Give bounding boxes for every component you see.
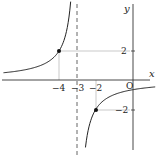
tick-label-m2: −2 bbox=[89, 83, 102, 93]
curve-left-branch bbox=[4, 2, 71, 73]
y-axis-label: y bbox=[123, 3, 130, 14]
point-m2-m2 bbox=[94, 108, 98, 112]
tick-label-m4: −4 bbox=[52, 83, 66, 93]
x-axis-label: x bbox=[149, 68, 155, 79]
origin-label: O bbox=[126, 81, 133, 91]
tick-label-ym2: −2 bbox=[115, 105, 128, 115]
tick-label-y2: 2 bbox=[121, 46, 127, 56]
point-m4-2 bbox=[57, 49, 61, 53]
graph-container: x y O −4 −3 −2 2 −2 bbox=[0, 0, 158, 157]
tick-label-m3: −3 bbox=[71, 83, 85, 93]
function-graph: x y O −4 −3 −2 2 −2 bbox=[0, 0, 158, 157]
